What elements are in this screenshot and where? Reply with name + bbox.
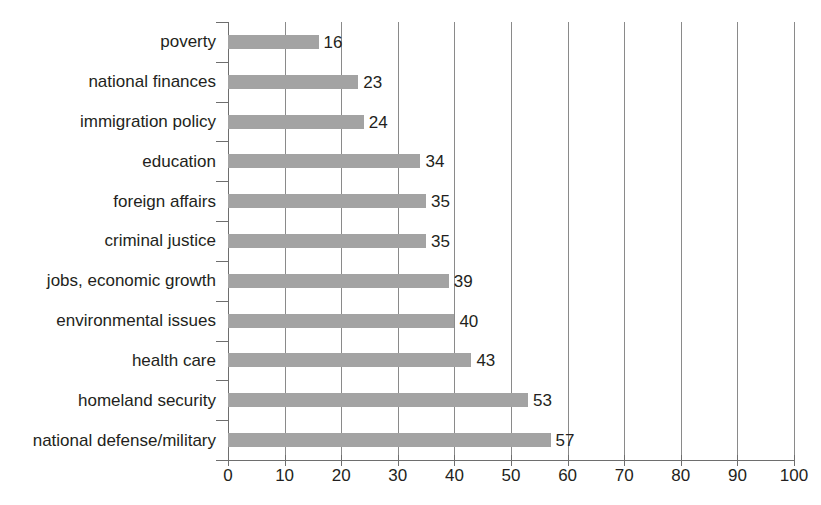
x-tick-label: 90	[728, 466, 747, 486]
bar[interactable]	[228, 115, 364, 129]
x-tick-mark-30	[398, 455, 399, 466]
bar-value-label: 35	[426, 192, 450, 211]
bar-row: 34	[228, 141, 794, 181]
plot-area: 1623243435353940435357	[228, 22, 794, 460]
bar-value-label: 43	[471, 351, 495, 370]
bar[interactable]	[228, 154, 420, 168]
category-label-text: criminal justice	[105, 231, 222, 250]
category-label: environmental issues	[0, 301, 222, 341]
x-tick-label: 20	[332, 466, 351, 486]
bar-row: 23	[228, 62, 794, 102]
bar-chart: povertynational financesimmigration poli…	[0, 0, 821, 505]
category-label: criminal justice	[0, 221, 222, 261]
bar-row: 40	[228, 301, 794, 341]
x-tick-mark-40	[454, 455, 455, 466]
bar-value-label: 57	[551, 431, 575, 450]
bar[interactable]	[228, 35, 319, 49]
y-tick-mark	[216, 102, 228, 103]
y-tick-mark	[216, 181, 228, 182]
category-axis-labels: povertynational financesimmigration poli…	[0, 22, 222, 460]
bar[interactable]	[228, 75, 358, 89]
bar-row: 24	[228, 102, 794, 142]
bar[interactable]	[228, 274, 449, 288]
y-tick-mark	[216, 420, 228, 421]
bar[interactable]	[228, 314, 454, 328]
category-label: national finances	[0, 62, 222, 102]
category-label-text: poverty	[160, 32, 222, 51]
bar-value-label: 39	[449, 271, 473, 290]
x-tick-label: 50	[502, 466, 521, 486]
category-label: jobs, economic growth	[0, 261, 222, 301]
bar-row: 43	[228, 341, 794, 381]
bar[interactable]	[228, 353, 471, 367]
category-label-text: environmental issues	[56, 311, 222, 330]
x-tick-label: 100	[780, 466, 808, 486]
bar[interactable]	[228, 234, 426, 248]
category-label-text: homeland security	[78, 391, 222, 410]
x-tick-mark-70	[624, 455, 625, 466]
x-tick-mark-10	[285, 455, 286, 466]
bar-row: 39	[228, 261, 794, 301]
x-tick-mark-0	[228, 455, 229, 466]
y-tick-mark	[216, 62, 228, 63]
x-tick-label: 80	[671, 466, 690, 486]
x-tick-mark-50	[511, 455, 512, 466]
bar-row: 16	[228, 22, 794, 62]
category-label-text: national defense/military	[33, 431, 222, 450]
category-label-text: foreign affairs	[113, 192, 222, 211]
category-label: foreign affairs	[0, 181, 222, 221]
category-label: health care	[0, 341, 222, 381]
x-tick-mark-80	[681, 455, 682, 466]
bar-row: 57	[228, 420, 794, 460]
y-tick-mark	[216, 221, 228, 222]
bar-row: 35	[228, 181, 794, 221]
bar-value-label: 24	[364, 112, 388, 131]
y-tick-mark	[216, 141, 228, 142]
category-label: poverty	[0, 22, 222, 62]
y-tick-mark	[216, 22, 228, 23]
x-tick-mark-90	[737, 455, 738, 466]
category-label-text: jobs, economic growth	[47, 271, 222, 290]
category-label: education	[0, 141, 222, 181]
bar-value-label: 16	[319, 32, 343, 51]
bar-value-label: 40	[454, 311, 478, 330]
y-tick-mark	[216, 341, 228, 342]
y-tick-mark	[216, 301, 228, 302]
gridline-100	[794, 22, 795, 460]
x-tick-label: 40	[445, 466, 464, 486]
bar[interactable]	[228, 194, 426, 208]
x-tick-mark-100	[794, 455, 795, 466]
bar-value-label: 53	[528, 391, 552, 410]
category-label-text: education	[142, 152, 222, 171]
bar-row: 53	[228, 380, 794, 420]
category-label-text: immigration policy	[80, 112, 222, 131]
x-tick-label: 60	[558, 466, 577, 486]
bar-value-label: 23	[358, 72, 382, 91]
bar[interactable]	[228, 393, 528, 407]
y-tick-mark	[216, 380, 228, 381]
y-tick-mark	[216, 261, 228, 262]
x-tick-label: 0	[223, 466, 232, 486]
category-label: immigration policy	[0, 102, 222, 142]
category-label: homeland security	[0, 380, 222, 420]
x-tick-mark-20	[341, 455, 342, 466]
x-tick-label: 30	[388, 466, 407, 486]
x-tick-label: 10	[275, 466, 294, 486]
category-label-text: national finances	[88, 72, 222, 91]
bar-value-label: 35	[426, 231, 450, 250]
y-tick-mark	[216, 460, 228, 461]
bar-row: 35	[228, 221, 794, 261]
category-label-text: health care	[132, 351, 222, 370]
category-label: national defense/military	[0, 420, 222, 460]
x-tick-mark-60	[568, 455, 569, 466]
bar[interactable]	[228, 433, 551, 447]
x-tick-label: 70	[615, 466, 634, 486]
bar-value-label: 34	[420, 152, 444, 171]
